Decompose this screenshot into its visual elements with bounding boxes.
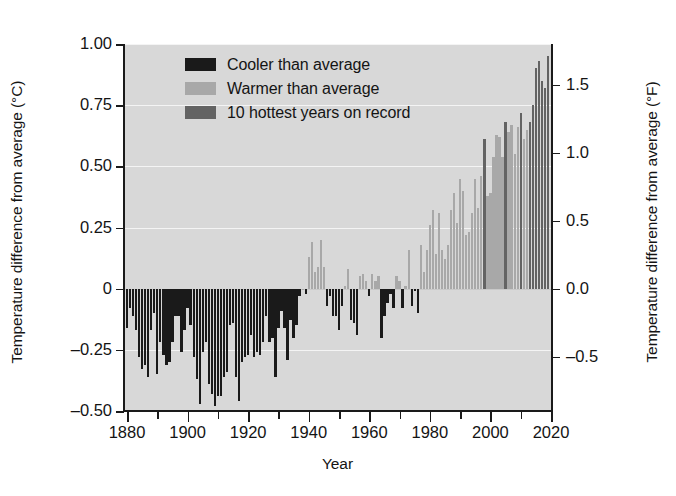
- bar: [214, 289, 216, 406]
- bar: [217, 289, 219, 397]
- y-axis-title-celsius: Temperature difference from average (°C): [8, 52, 26, 392]
- bar: [429, 225, 431, 289]
- bar: [462, 191, 464, 289]
- x-tick-major: [309, 411, 311, 422]
- bar: [268, 289, 270, 343]
- bar: [235, 289, 237, 377]
- bar: [486, 196, 488, 289]
- bar: [368, 289, 370, 296]
- bar: [380, 289, 382, 338]
- bar: [193, 289, 195, 358]
- bar: [408, 250, 410, 289]
- bar: [344, 286, 346, 288]
- y-tick-right: [552, 289, 560, 291]
- bar: [259, 289, 261, 355]
- x-tick-minor: [339, 411, 341, 419]
- x-tick-minor: [400, 411, 402, 419]
- bar: [498, 137, 500, 289]
- bar: [256, 289, 258, 353]
- x-tick-label: 1980: [395, 423, 465, 442]
- bar: [383, 289, 385, 316]
- bar: [495, 135, 497, 289]
- bar: [177, 289, 179, 316]
- bar: [341, 289, 343, 306]
- bar: [174, 289, 176, 316]
- bar: [150, 289, 152, 331]
- bar: [507, 132, 509, 289]
- bar: [423, 272, 425, 289]
- x-tick-major: [369, 411, 371, 422]
- bar: [220, 289, 222, 397]
- bar: [295, 289, 297, 326]
- y-tick-left: [116, 289, 124, 291]
- bar: [129, 289, 131, 309]
- bar: [510, 125, 512, 289]
- bar: [168, 289, 170, 362]
- bar: [159, 289, 161, 343]
- bar: [544, 88, 546, 289]
- bar: [453, 193, 455, 288]
- bar: [492, 157, 494, 289]
- legend-item: Cooler than average: [185, 53, 410, 76]
- y-tick-label-left: –0.50: [42, 401, 112, 420]
- y-tick-label-right: 1.5: [566, 75, 636, 94]
- legend-swatch: [185, 58, 216, 71]
- y-tick-label-right: 0.5: [566, 211, 636, 230]
- bar: [244, 289, 246, 358]
- bar: [289, 289, 291, 321]
- bar: [280, 289, 282, 311]
- bar: [386, 289, 388, 304]
- bar: [302, 289, 304, 290]
- bar: [292, 289, 294, 338]
- x-axis-title: Year: [124, 455, 551, 473]
- bar: [335, 289, 337, 316]
- bar: [541, 81, 543, 289]
- bar: [501, 157, 503, 289]
- bar: [444, 259, 446, 288]
- legend-item: 10 hottest years on record: [185, 101, 410, 124]
- bar: [420, 245, 422, 289]
- bar: [359, 276, 361, 288]
- bar: [298, 289, 300, 296]
- y-tick-left: [116, 44, 124, 46]
- y-tick-label-left: –0.25: [42, 340, 112, 359]
- bar: [401, 289, 403, 309]
- bar: [535, 68, 537, 288]
- bar: [141, 289, 143, 370]
- y-tick-left: [116, 228, 124, 230]
- legend-label: Warmer than average: [227, 80, 379, 98]
- bar: [438, 213, 440, 289]
- x-tick-minor: [460, 411, 462, 419]
- legend-label: 10 hottest years on record: [227, 104, 410, 122]
- bar: [414, 289, 416, 291]
- bar: [153, 289, 155, 313]
- bar: [199, 289, 201, 404]
- bar: [526, 130, 528, 289]
- bar: [353, 289, 355, 323]
- x-tick-minor: [278, 411, 280, 419]
- bar: [305, 289, 307, 294]
- x-tick-label: 1880: [92, 423, 162, 442]
- y-tick-label-left: 0.50: [42, 156, 112, 175]
- bar: [523, 139, 525, 288]
- bar: [320, 240, 322, 289]
- bar: [520, 113, 522, 289]
- x-tick-label: 1900: [153, 423, 223, 442]
- bar: [189, 289, 191, 326]
- y-tick-label-right: 1.0: [566, 143, 636, 162]
- bar: [311, 242, 313, 288]
- x-tick-major: [490, 411, 492, 422]
- x-tick-label: 2000: [455, 423, 525, 442]
- bar: [229, 289, 231, 326]
- bar: [147, 289, 149, 377]
- y-tick-right: [552, 221, 560, 223]
- bar: [211, 289, 213, 394]
- y-tick-label-left: 1.00: [42, 34, 112, 53]
- bar: [165, 289, 167, 365]
- legend: Cooler than averageWarmer than average10…: [185, 53, 410, 125]
- y-tick-right: [552, 153, 560, 155]
- bar: [459, 179, 461, 289]
- y-tick-label-left: 0.75: [42, 95, 112, 114]
- bar: [232, 289, 234, 323]
- bar: [223, 289, 225, 377]
